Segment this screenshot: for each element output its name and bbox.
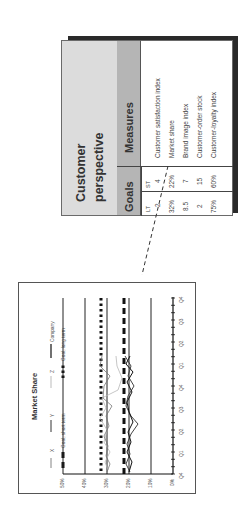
y-tick-40: 40% (82, 478, 87, 488)
y-tick-10: 10% (148, 478, 153, 488)
y-tick-50: 50% (60, 478, 65, 488)
x-tick-q3-a: Q3 (179, 407, 184, 413)
x-tick-q4-b: Q4 (179, 385, 184, 391)
x-tick-q2-b: Q2 (179, 341, 184, 347)
x-tick-q4-c: Q4 (179, 297, 184, 303)
series-z (100, 356, 122, 470)
x-tick-q1-a: Q1 (179, 451, 184, 457)
chart-plot-area (0, 0, 248, 505)
series-y (125, 356, 138, 472)
y-tick-0: 0% (170, 479, 175, 486)
x-tick-q3-b: Q3 (179, 319, 184, 325)
x-tick-q1-b: Q1 (179, 363, 184, 369)
y-tick-30: 30% (104, 478, 109, 488)
x-tick-q4-a: Q4 (179, 473, 184, 479)
y-tick-20: 20% (126, 478, 131, 488)
x-tick-q2-a: Q2 (179, 429, 184, 435)
